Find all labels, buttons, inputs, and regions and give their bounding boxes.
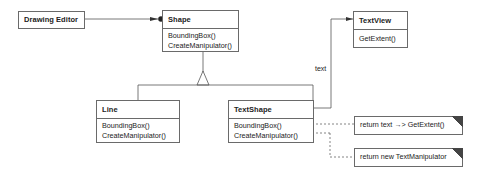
operation: CreateManipulator() — [168, 41, 233, 51]
class-text-view: TextView GetExtent() — [353, 11, 408, 48]
operation: GetExtent() — [359, 34, 402, 44]
class-line: Line BoundingBox() CreateManipulator() — [96, 100, 180, 143]
operation: BoundingBox() — [102, 121, 174, 131]
class-name: TextShape — [229, 101, 313, 119]
operation: BoundingBox() — [234, 121, 308, 131]
operation: CreateManipulator() — [234, 131, 308, 141]
note-fold-icon — [452, 148, 463, 159]
note-fold-icon — [452, 116, 463, 127]
class-operations: BoundingBox() CreateManipulator() — [97, 119, 179, 142]
class-drawing-editor: Drawing Editor — [18, 11, 85, 29]
note-create-manipulator: return new TextManipulator — [354, 148, 463, 167]
class-operations: BoundingBox() CreateManipulator() — [163, 29, 238, 52]
association-label: text — [315, 65, 326, 72]
class-operations: BoundingBox() CreateManipulator() — [229, 119, 313, 142]
class-name: Drawing Editor — [19, 12, 84, 28]
note-text: return text →> GetExtent() — [360, 120, 445, 129]
note-bounding-box: return text →> GetExtent() — [354, 116, 463, 135]
note-text: return new TextManipulator — [360, 152, 447, 161]
operation: CreateManipulator() — [102, 131, 174, 141]
class-shape: Shape BoundingBox() CreateManipulator() — [162, 10, 239, 52]
class-text-shape: TextShape BoundingBox() CreateManipulato… — [228, 100, 314, 143]
class-name: Shape — [163, 11, 238, 29]
class-name: TextView — [354, 12, 407, 30]
class-operations: GetExtent() — [354, 30, 407, 46]
class-name: Line — [97, 101, 179, 119]
operation: BoundingBox() — [168, 31, 233, 41]
